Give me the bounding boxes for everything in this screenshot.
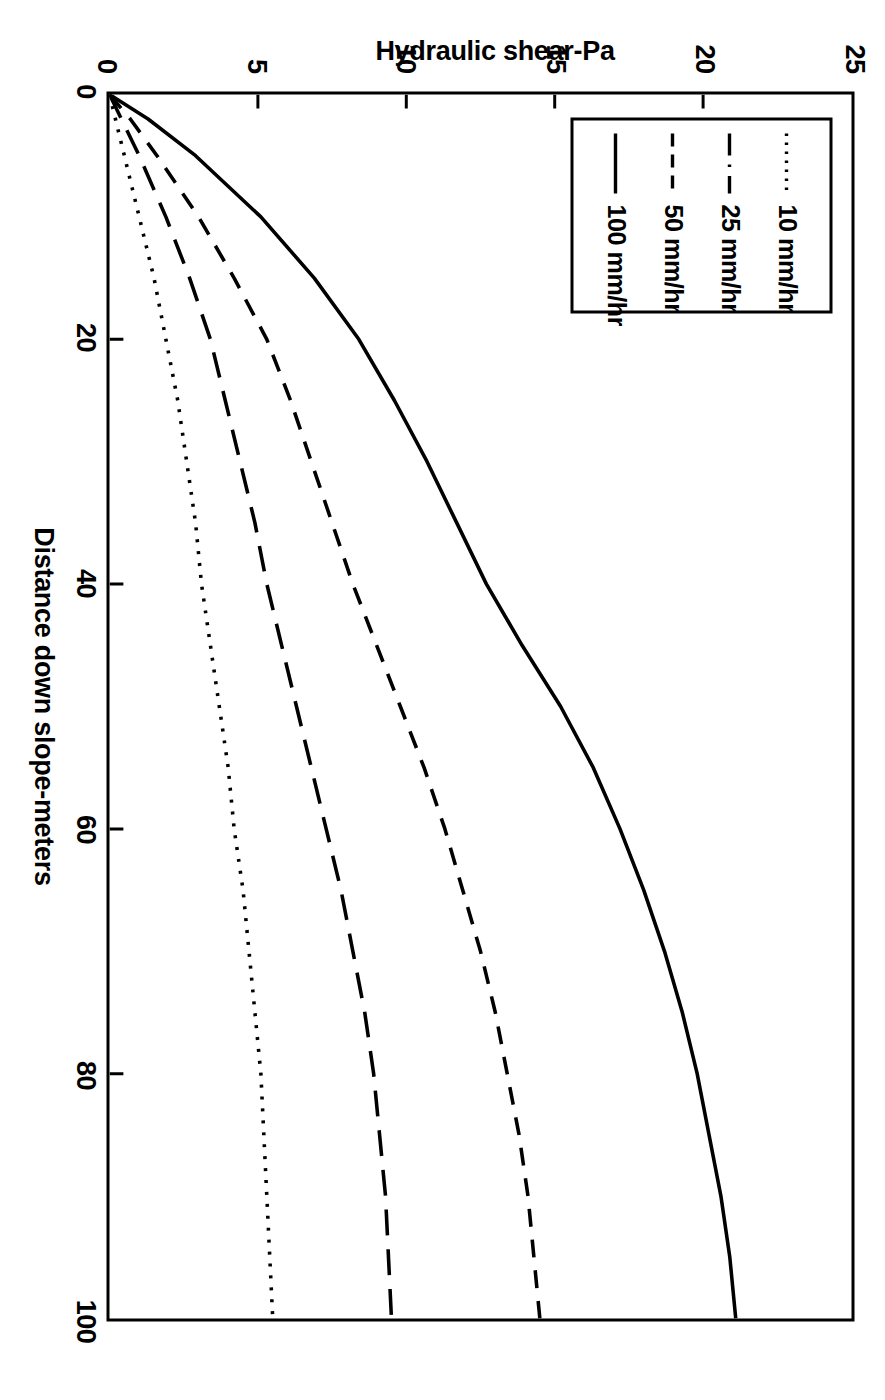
legend-item-label: 50 mm/hr xyxy=(659,205,688,313)
x-axis-title: Distance down slope-meters xyxy=(28,92,59,1322)
x-axis-tick-labels: 020406080100 xyxy=(61,92,101,1322)
legend-item: 25 mm/hr xyxy=(702,133,759,301)
legend-item: 100 mm/hr xyxy=(588,133,645,301)
x-tick-label: 100 xyxy=(70,1300,101,1344)
x-tick-label: 20 xyxy=(70,323,101,352)
x-tick-label: 0 xyxy=(70,85,101,100)
x-tick-label: 80 xyxy=(70,1061,101,1090)
series-line xyxy=(110,95,392,1319)
series-line xyxy=(110,95,540,1319)
legend-item-label: 100 mm/hr xyxy=(602,205,631,326)
y-tick-label: 0 xyxy=(92,59,123,74)
y-axis-title: Hydraulic shear-Pa xyxy=(122,37,870,68)
legend-item-label: 25 mm/hr xyxy=(716,205,745,313)
chart-figure: 10 mm/hr 25 mm/hr 50 mm/hr 100 mm/hr xyxy=(0,0,885,1400)
dotted-line-swatch xyxy=(779,133,797,195)
x-tick-label: 40 xyxy=(70,569,101,598)
legend-item-label: 10 mm/hr xyxy=(773,205,802,313)
legend-item: 10 mm/hr xyxy=(759,133,816,301)
legend: 10 mm/hr 25 mm/hr 50 mm/hr 100 mm/hr xyxy=(571,118,833,314)
x-tick-label: 60 xyxy=(70,815,101,844)
dashed-line-swatch xyxy=(665,133,683,195)
legend-item: 50 mm/hr xyxy=(645,133,702,301)
figure-rotation-wrapper: 10 mm/hr 25 mm/hr 50 mm/hr 100 mm/hr xyxy=(0,0,885,1400)
dashdot-line-swatch xyxy=(722,133,740,195)
solid-line-swatch xyxy=(608,133,626,195)
